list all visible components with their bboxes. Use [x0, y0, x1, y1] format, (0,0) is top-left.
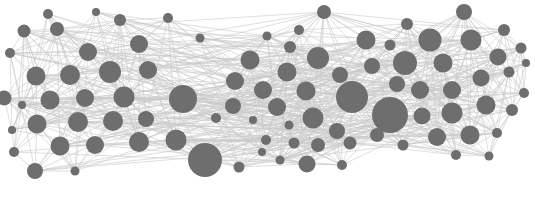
graph-node[interactable]: [473, 70, 490, 87]
graph-node[interactable]: [254, 81, 272, 99]
graph-node[interactable]: [86, 136, 104, 154]
graph-node[interactable]: [299, 156, 316, 173]
graph-node[interactable]: [258, 148, 266, 156]
graph-node[interactable]: [434, 54, 453, 73]
graph-node[interactable]: [139, 61, 157, 79]
graph-node[interactable]: [284, 41, 296, 53]
graph-node[interactable]: [196, 34, 205, 43]
graph-node[interactable]: [234, 162, 245, 173]
graph-node[interactable]: [311, 138, 325, 152]
graph-node[interactable]: [393, 51, 417, 75]
graph-node[interactable]: [169, 85, 197, 113]
graph-node[interactable]: [138, 111, 154, 127]
graph-node[interactable]: [519, 88, 529, 98]
graph-node[interactable]: [249, 116, 257, 124]
graph-node[interactable]: [485, 152, 494, 161]
graph-node[interactable]: [522, 59, 530, 67]
graph-node[interactable]: [329, 123, 345, 139]
graph-node[interactable]: [27, 67, 46, 86]
network-graph-canvas: [0, 0, 535, 215]
graph-node[interactable]: [516, 43, 527, 54]
graph-node[interactable]: [76, 89, 94, 107]
graph-node[interactable]: [303, 108, 324, 129]
graph-node[interactable]: [41, 91, 60, 110]
graph-node[interactable]: [385, 40, 396, 51]
graph-node[interactable]: [51, 137, 70, 156]
graph-node[interactable]: [50, 22, 64, 36]
graph-node[interactable]: [401, 18, 413, 30]
graph-node[interactable]: [492, 128, 502, 138]
graph-node[interactable]: [490, 49, 507, 66]
graph-node[interactable]: [71, 167, 80, 176]
graph-node[interactable]: [114, 14, 126, 26]
graph-node[interactable]: [263, 32, 272, 41]
graph-edge: [10, 53, 12, 130]
graph-node[interactable]: [389, 76, 405, 92]
graph-node[interactable]: [8, 126, 16, 134]
graph-node[interactable]: [477, 96, 496, 115]
graph-node[interactable]: [332, 67, 348, 83]
graph-node[interactable]: [225, 98, 241, 114]
graph-node[interactable]: [289, 138, 300, 149]
graph-node[interactable]: [451, 150, 461, 160]
graph-node[interactable]: [370, 128, 384, 142]
graph-node[interactable]: [278, 63, 297, 82]
graph-node[interactable]: [506, 104, 518, 116]
graph-node[interactable]: [28, 115, 47, 134]
graph-node[interactable]: [129, 132, 149, 152]
graph-node[interactable]: [285, 121, 294, 130]
graph-node[interactable]: [344, 137, 357, 150]
graph-node[interactable]: [317, 5, 331, 19]
graph-node[interactable]: [226, 72, 244, 90]
graph-node[interactable]: [188, 143, 222, 177]
graph-node[interactable]: [9, 147, 19, 157]
graph-node[interactable]: [261, 135, 271, 145]
graph-node[interactable]: [18, 25, 31, 38]
graph-node[interactable]: [99, 61, 121, 83]
graph-node[interactable]: [18, 101, 26, 109]
graph-node[interactable]: [411, 81, 429, 99]
network-graph-svg: [0, 0, 535, 215]
graph-node[interactable]: [372, 97, 408, 133]
graph-node[interactable]: [92, 8, 100, 16]
graph-node[interactable]: [414, 108, 431, 125]
graph-node[interactable]: [357, 31, 376, 50]
graph-node[interactable]: [294, 25, 304, 35]
graph-node[interactable]: [297, 82, 316, 101]
graph-node[interactable]: [428, 128, 446, 146]
graph-node[interactable]: [241, 51, 260, 70]
graph-node[interactable]: [114, 87, 135, 108]
graph-node[interactable]: [103, 111, 123, 131]
graph-node[interactable]: [307, 47, 329, 69]
graph-node[interactable]: [504, 67, 515, 78]
graph-node[interactable]: [461, 30, 482, 51]
graph-node[interactable]: [211, 113, 221, 123]
graph-node[interactable]: [268, 98, 286, 116]
graph-node[interactable]: [68, 112, 88, 132]
graph-node[interactable]: [398, 140, 409, 151]
graph-node[interactable]: [166, 130, 187, 151]
graph-node[interactable]: [461, 126, 480, 145]
graph-node[interactable]: [163, 13, 173, 23]
graph-node[interactable]: [419, 29, 442, 52]
graph-node[interactable]: [443, 81, 461, 99]
graph-node[interactable]: [130, 35, 148, 53]
graph-node[interactable]: [336, 81, 368, 113]
graph-node[interactable]: [456, 4, 472, 20]
graph-node[interactable]: [498, 24, 510, 36]
graph-node[interactable]: [5, 48, 15, 58]
graph-node[interactable]: [43, 9, 53, 19]
graph-node[interactable]: [337, 160, 347, 170]
graph-node[interactable]: [79, 43, 97, 61]
graph-node[interactable]: [276, 156, 285, 165]
graph-node[interactable]: [27, 163, 43, 179]
graph-node[interactable]: [364, 58, 380, 74]
graph-node[interactable]: [60, 65, 80, 85]
graph-node[interactable]: [442, 103, 463, 124]
